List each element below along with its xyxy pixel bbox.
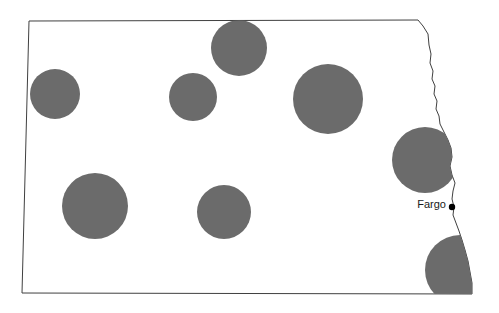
symbol-northwest[interactable]	[30, 69, 80, 119]
map-canvas: Fargo	[0, 0, 499, 313]
symbol-southeast[interactable]	[425, 235, 495, 305]
symbol-north-central[interactable]	[169, 73, 217, 121]
symbol-northeast[interactable]	[293, 64, 363, 134]
symbol-southwest[interactable]	[62, 173, 128, 239]
city-label-fargo: Fargo	[417, 198, 446, 210]
city-dot-fargo[interactable]	[449, 204, 455, 210]
symbol-south-central[interactable]	[197, 185, 251, 239]
symbol-north-top[interactable]	[211, 20, 267, 76]
north-dakota-map: Fargo	[0, 0, 499, 313]
symbol-east-central[interactable]	[392, 127, 458, 193]
